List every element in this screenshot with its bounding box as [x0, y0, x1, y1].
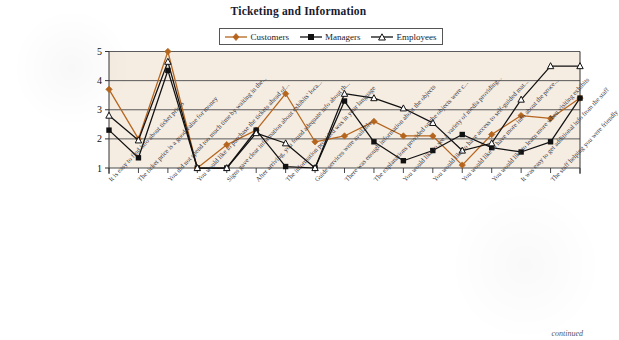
data-point-managers-9	[371, 139, 376, 144]
data-point-managers-0	[106, 127, 111, 132]
data-point-managers-15	[548, 139, 553, 144]
y-tick-label: 3	[97, 104, 102, 115]
data-point-managers-16	[577, 95, 582, 100]
y-tick-label: 1	[97, 163, 102, 174]
data-point-managers-14	[518, 149, 523, 154]
continued-note: continued	[551, 329, 583, 338]
y-tick-label: 5	[97, 46, 102, 57]
data-point-managers-1	[136, 155, 141, 160]
y-tick-label: 4	[97, 75, 102, 86]
data-point-managers-12	[460, 132, 465, 137]
data-point-managers-11	[430, 148, 435, 153]
y-tick-label: 2	[97, 133, 102, 144]
data-point-managers-6	[283, 164, 288, 169]
data-point-managers-10	[401, 158, 406, 163]
